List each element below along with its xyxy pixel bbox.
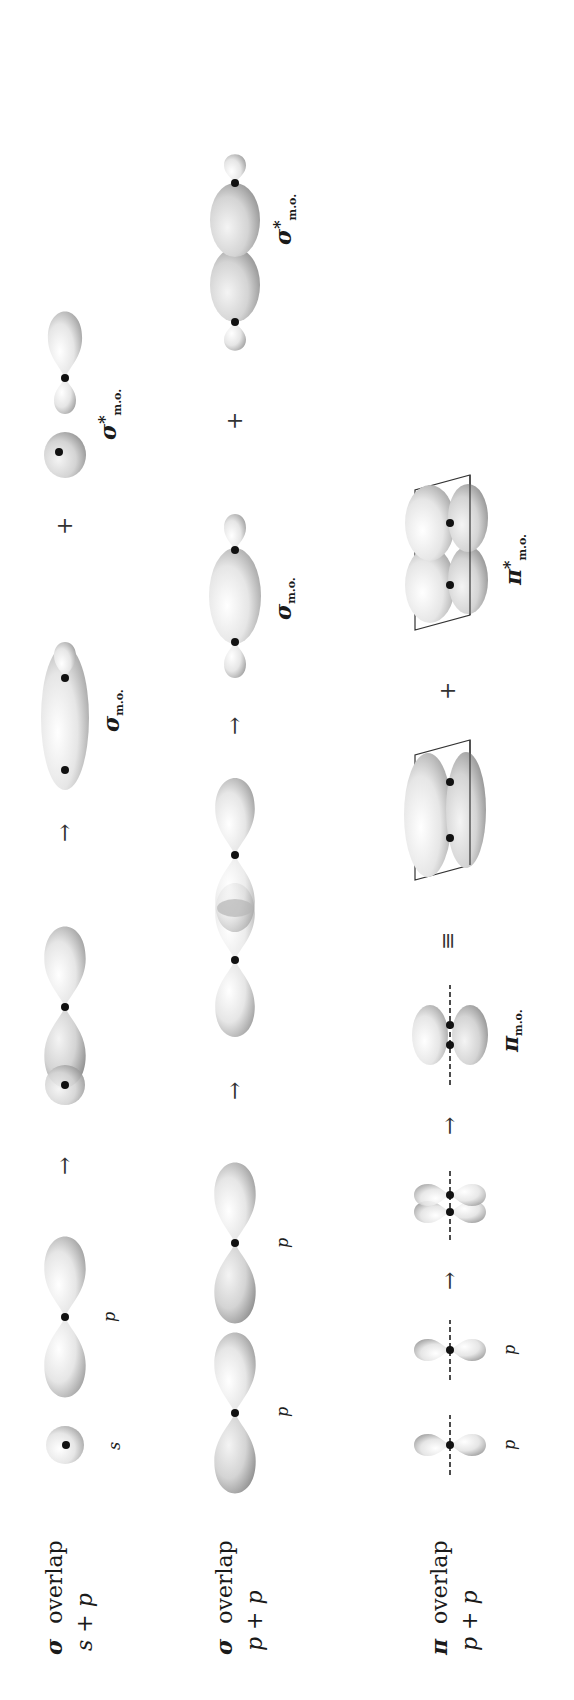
arrow-icon: → [222,717,247,735]
row-subtitle: p + p [455,1540,485,1651]
p-orbital-icon [235,1325,236,1495]
p-side-by-side-icon [450,1170,451,1240]
mo-label: πm.o. [497,1009,525,1052]
plus-icon: + [222,412,247,430]
row-title: overlap [42,1540,67,1623]
row-label: σ overlap s + p [40,1540,99,1655]
row-symbol: σ [211,1639,237,1655]
orbital-label: p [100,1312,119,1322]
row-symbol: π [426,1639,452,1655]
sigma-antibonding-orbital-icon [65,280,66,480]
row-title: overlap [212,1540,237,1623]
plus-icon: + [52,517,77,535]
pp-overlap-orbital-icon [235,780,236,1040]
plus-icon: + [435,682,460,700]
arrow-icon: → [52,1157,77,1175]
sigma-bonding-orbital-icon [235,480,236,680]
row-title: overlap [427,1540,452,1623]
mo-label: σm.o. [98,689,126,732]
s-orbital-icon [45,1425,85,1465]
arrow-icon: → [437,1272,462,1290]
mo-label: σm.o. [270,577,298,620]
p-orbital-icon [65,1230,66,1400]
sp-overlap-orbital-icon [65,905,66,1105]
orbital-label: p [500,1440,519,1450]
row-symbol: σ [41,1639,67,1655]
mo-label: σ*m.o. [95,389,124,440]
mo-label: σ*m.o. [270,194,299,245]
row-sigma-pp: σ overlap p + p p p → → [175,0,325,1700]
figure-orbital-overlap: σ overlap s + p s p → → [0,0,574,1700]
row-subtitle: s + p [70,1540,100,1651]
sigma-antibonding-orbital-icon [235,110,236,370]
row-label: σ overlap p + p [210,1540,269,1655]
p-orbital-icon [235,1155,236,1325]
pi-antibonding-3d-orbital-icon [450,455,451,655]
orbital-label: p [273,1238,292,1248]
equivalence-icon: ≡ [435,932,460,950]
arrow-icon: → [52,824,77,842]
row-subtitle: p + p [240,1540,270,1651]
sigma-bonding-orbital-icon [65,590,66,790]
p-orbital-vertical-icon [450,1415,451,1475]
row-sigma-sp: σ overlap s + p s p → → [0,0,150,1700]
pi-bonding-orbital-icon [450,985,451,1085]
orbital-label: p [500,1345,519,1355]
p-orbital-vertical-icon [450,1320,451,1380]
arrow-icon: → [222,1082,247,1100]
mo-label: π*m.o. [500,534,529,585]
row-pi-pp: π overlap p + p p p → [385,0,574,1700]
pi-bonding-3d-orbital-icon [450,730,451,900]
row-label: π overlap p + p [425,1540,484,1655]
arrow-icon: → [437,1117,462,1135]
orbital-label: p [273,1407,292,1417]
orbital-label: s [105,1442,124,1450]
